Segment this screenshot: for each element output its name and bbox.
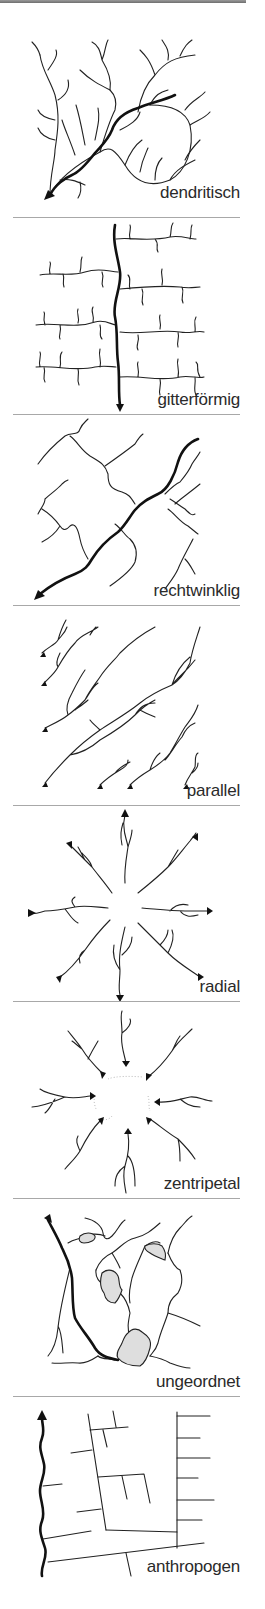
label-anthropogen: anthropogen <box>147 1557 240 1577</box>
label-zentripetal: zentripetal <box>164 1174 240 1194</box>
radial-pattern-diagram <box>0 805 265 1001</box>
trellis-pattern-diagram <box>0 217 265 414</box>
parallel-pattern-diagram <box>0 605 265 805</box>
label-rechtwinklig: rechtwinklig <box>154 581 240 601</box>
centripetal-pattern-diagram <box>0 1001 265 1198</box>
anthropogenic-pattern-diagram <box>0 1396 265 1609</box>
label-gitterfoermig: gitterförmig <box>157 390 240 410</box>
label-parallel: parallel <box>187 781 240 801</box>
panel-ungeordnet: ungeordnet <box>0 1198 265 1396</box>
label-dendritisch: dendritisch <box>160 183 240 203</box>
panel-dendritisch: dendritisch <box>0 0 265 217</box>
panel-parallel: parallel <box>0 605 265 805</box>
panel-zentripetal: zentripetal <box>0 1001 265 1198</box>
panel-anthropogen: anthropogen <box>0 1396 265 1609</box>
label-radial: radial <box>200 977 240 997</box>
panel-radial: radial <box>0 805 265 1001</box>
rectangular-pattern-diagram <box>0 414 265 605</box>
deranged-pattern-diagram <box>0 1198 265 1396</box>
panel-gitterfoermig: gitterförmig <box>0 217 265 414</box>
label-ungeordnet: ungeordnet <box>156 1372 240 1392</box>
panel-rechtwinklig: rechtwinklig <box>0 414 265 605</box>
